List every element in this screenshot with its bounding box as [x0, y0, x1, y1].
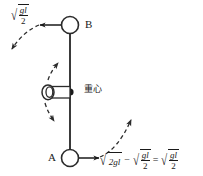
radical-sign-icon: √ [100, 153, 106, 168]
radicand: gl2 [140, 149, 151, 172]
radical-sign-icon: √ [11, 8, 17, 23]
radicand-expression: 2gl [108, 158, 122, 167]
dashed-arrow-down [45, 103, 54, 121]
endpoint-circle-b [62, 17, 79, 34]
equals-operator: = [151, 155, 161, 165]
dashed-arrow-up [48, 63, 58, 80]
fraction-denominator: 2 [141, 160, 150, 171]
sqrt-group-term2: √gl2 [132, 149, 151, 172]
fraction-numerator: gl [141, 151, 150, 160]
sqrt-group: √gl2 [10, 4, 29, 27]
sqrt-group-term1: √2gl [99, 151, 122, 169]
radical-sign-icon: √ [133, 153, 139, 168]
fraction-numerator: gl [169, 151, 178, 160]
center-of-gravity-label: 重心 [84, 85, 102, 94]
sleeve-inner-ellipse [46, 87, 53, 97]
dashed-trajectory-b [12, 25, 39, 49]
fraction: gl2 [141, 151, 150, 172]
radicand: 2gl [107, 152, 123, 170]
velocity-equation-a: √2gl − √gl2 = √gl2 [99, 149, 179, 172]
radicand: gl2 [168, 149, 179, 172]
fraction: gl2 [169, 151, 178, 172]
point-label-b: B [85, 19, 92, 30]
velocity-label-b: √gl2 [10, 4, 29, 27]
minus-operator: − [122, 155, 132, 165]
fraction-denominator: 2 [169, 160, 178, 171]
radical-sign-icon: √ [161, 153, 167, 168]
radicand: gl2 [18, 4, 29, 27]
sqrt-group-term3: √gl2 [160, 149, 179, 172]
fraction-denominator: 2 [19, 15, 28, 26]
endpoint-circle-a [62, 150, 79, 167]
fraction-numerator: gl [19, 6, 28, 15]
fraction: gl2 [19, 6, 28, 27]
point-label-a: A [48, 152, 56, 163]
physics-diagram: √gl2 B A 重心 √2gl − √gl2 = √gl2 [0, 0, 203, 176]
